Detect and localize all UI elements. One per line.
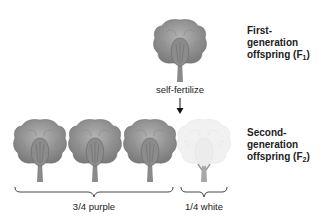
white-group-brace <box>180 186 228 198</box>
down-arrow-icon <box>172 98 188 116</box>
f2-label-line1: Second- <box>247 127 310 139</box>
f2-label-line2: generation <box>247 139 310 151</box>
purple-ratio-label: 3/4 purple <box>54 201 134 212</box>
f2-white-flower <box>176 118 232 184</box>
f1-label-line2: generation <box>247 37 310 49</box>
f1-label: First- generation offspring (F1) <box>247 25 310 61</box>
self-fertilize-label: self-fertilize <box>150 84 210 95</box>
purple-group-brace <box>14 186 174 198</box>
f1-purple-flower <box>152 18 208 84</box>
f2-purple-flower-2 <box>67 118 123 184</box>
f1-label-line1: First- <box>247 25 310 37</box>
white-ratio-label: 1/4 white <box>176 201 232 212</box>
f2-purple-flower-3 <box>122 118 178 184</box>
f1-label-line3: offspring (F1) <box>247 49 310 61</box>
f2-label-line3: offspring (F2) <box>247 151 310 163</box>
f2-label: Second- generation offspring (F2) <box>247 127 310 163</box>
f2-purple-flower-1 <box>12 118 68 184</box>
